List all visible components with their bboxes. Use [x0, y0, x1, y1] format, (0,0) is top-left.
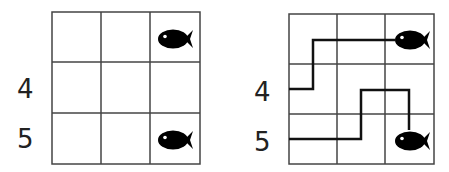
fish-icon	[395, 31, 430, 50]
grid-after	[0, 0, 449, 172]
row-label-5: 5	[254, 129, 271, 155]
fish-icon	[395, 132, 430, 151]
row-label-4: 4	[254, 79, 271, 105]
